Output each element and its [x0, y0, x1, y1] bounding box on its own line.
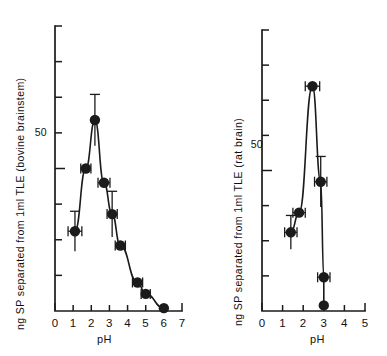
figure-ph-elution-profiles: 01234567 ng SP separated from 1ml TLE (b… [0, 0, 387, 356]
data-curve-left [75, 120, 164, 308]
data-point-left-8 [159, 303, 169, 313]
x-tick-label-right-1: 1 [279, 317, 286, 329]
data-point-left-1 [81, 163, 91, 173]
x-tick-label-left-2: 2 [88, 317, 95, 329]
y-axis-tick-label-50-left: 50 [27, 126, 47, 138]
data-point-right-1 [294, 207, 304, 217]
data-point-left-0 [70, 226, 80, 236]
y-axis-tick-label-50-right: 50 [243, 138, 263, 150]
x-tick-label-left-7: 7 [179, 317, 186, 329]
x-tick-label-right-5: 5 [362, 317, 369, 329]
plot-canvas-right: 012345 [200, 0, 387, 356]
data-point-right-5 [319, 300, 329, 310]
data-curve-right [291, 86, 324, 305]
data-point-left-4 [107, 209, 117, 219]
data-point-right-4 [319, 272, 329, 282]
data-point-left-3 [99, 178, 109, 188]
data-point-left-6 [132, 277, 142, 287]
data-point-right-2 [307, 81, 317, 91]
data-point-left-2 [90, 115, 100, 125]
x-tick-label-left-3: 3 [106, 317, 113, 329]
x-tick-label-right-3: 3 [320, 317, 327, 329]
x-tick-label-left-6: 6 [161, 317, 168, 329]
x-tick-label-left-5: 5 [142, 317, 149, 329]
chart-panel-rat-brain: 012345 [200, 0, 387, 356]
data-point-left-5 [115, 240, 125, 250]
x-tick-label-right-2: 2 [300, 317, 307, 329]
data-point-right-0 [286, 227, 296, 237]
x-axis-label-left: pH [97, 333, 112, 345]
data-point-right-3 [316, 177, 326, 187]
axis-lines-left [55, 26, 182, 311]
x-tick-label-left-1: 1 [70, 317, 77, 329]
chart-panel-bovine-brainstem: 01234567 ng SP separated from 1ml TLE (b… [0, 0, 200, 356]
x-tick-label-right-0: 0 [259, 317, 266, 329]
y-axis-label-left: ng SP separated from 1ml TLE (bovine bra… [14, 78, 26, 330]
axis-lines-right [262, 30, 365, 311]
x-tick-label-left-4: 4 [124, 317, 131, 329]
data-point-left-7 [141, 289, 151, 299]
x-tick-label-right-4: 4 [341, 317, 348, 329]
x-axis-label-right: pH [310, 333, 325, 345]
x-tick-label-left-0: 0 [52, 317, 59, 329]
plot-canvas-left: 01234567 [0, 0, 200, 356]
